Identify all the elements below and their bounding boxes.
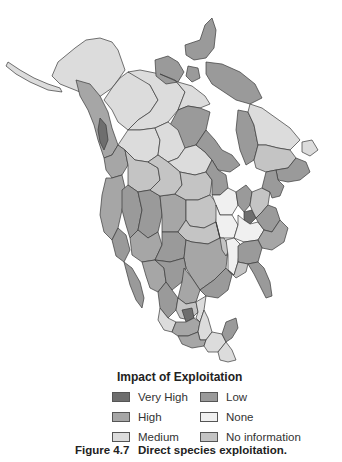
legend-label: Low [226,391,247,403]
swatch-high [112,412,130,422]
region-arctic-islands-north [185,18,216,60]
legend-item-medium: Medium [112,430,179,444]
region-utah [138,190,162,238]
region-baja [124,262,144,308]
legend-label: Medium [138,431,179,443]
swatch-medium [112,432,130,442]
legend-item-no-information: No information [200,430,301,444]
region-arctic-small [186,66,200,82]
region-newfoundland [302,140,318,156]
legend-label: Very High [138,391,188,403]
legend-label: No information [226,431,301,443]
swatch-none [200,412,218,422]
swatch-very-high [112,392,130,402]
legend-item-high: High [112,410,162,424]
region-florida [248,262,272,298]
legend-item-low: Low [200,390,247,404]
region-yucatan [222,318,238,342]
legend-label: None [226,411,254,423]
swatch-no-information [200,432,218,442]
figure-number: Figure 4.7 [75,444,129,456]
region-georgia-alabama [238,240,262,264]
north-america-map [0,0,342,365]
legend-title: Impact of Exploitation [117,370,242,384]
region-michigan [236,185,252,212]
legend-item-none: None [200,410,254,424]
swatch-low [200,392,218,402]
legend-label: High [138,411,162,423]
figure-caption-text: Direct species exploitation. [138,444,287,456]
legend-item-very-high: Very High [112,390,188,404]
region-baffin [206,62,262,104]
